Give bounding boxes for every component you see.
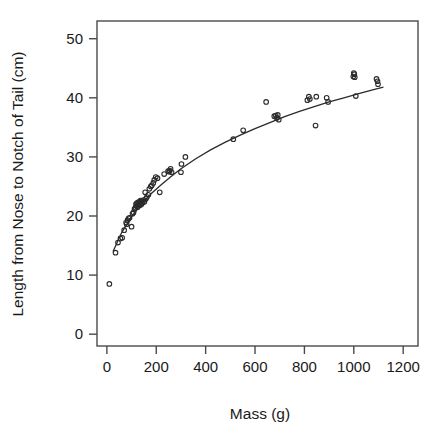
y-axis-title: Length from Nose to Notch of Tail (cm) xyxy=(9,51,26,316)
x-tick-label: 1000 xyxy=(337,358,370,375)
data-point xyxy=(183,155,188,160)
x-tick-label: 0 xyxy=(103,358,111,375)
y-tick-label: 0 xyxy=(75,325,83,342)
data-points xyxy=(107,71,380,287)
y-tick-label: 40 xyxy=(66,89,83,106)
data-point xyxy=(179,170,184,175)
regression-curve xyxy=(113,87,383,251)
data-point xyxy=(129,224,134,229)
plot-border xyxy=(97,21,418,346)
x-tick-label: 600 xyxy=(243,358,268,375)
data-point xyxy=(179,162,184,167)
x-tick-label: 1200 xyxy=(386,358,419,375)
plot-frame xyxy=(97,21,418,346)
scatter-plot-figure: 020040060080010001200 01020304050 Mass (… xyxy=(0,0,446,443)
data-point xyxy=(313,123,318,128)
x-axis-ticks: 020040060080010001200 xyxy=(103,346,420,375)
data-point xyxy=(157,190,162,195)
plot-canvas: 020040060080010001200 01020304050 Mass (… xyxy=(0,0,446,443)
data-point xyxy=(241,128,246,133)
data-point xyxy=(107,282,112,287)
data-point xyxy=(314,94,319,99)
x-tick-label: 800 xyxy=(292,358,317,375)
x-axis-title: Mass (g) xyxy=(230,405,290,422)
data-point xyxy=(376,82,381,87)
data-point xyxy=(113,250,118,255)
y-tick-label: 50 xyxy=(66,30,83,47)
data-point xyxy=(264,100,269,105)
y-tick-label: 30 xyxy=(66,148,83,165)
x-tick-label: 400 xyxy=(193,358,218,375)
y-axis-ticks: 01020304050 xyxy=(66,30,97,342)
x-tick-label: 200 xyxy=(144,358,169,375)
fitted-curve xyxy=(113,87,383,251)
y-tick-label: 10 xyxy=(66,266,83,283)
y-tick-label: 20 xyxy=(66,207,83,224)
